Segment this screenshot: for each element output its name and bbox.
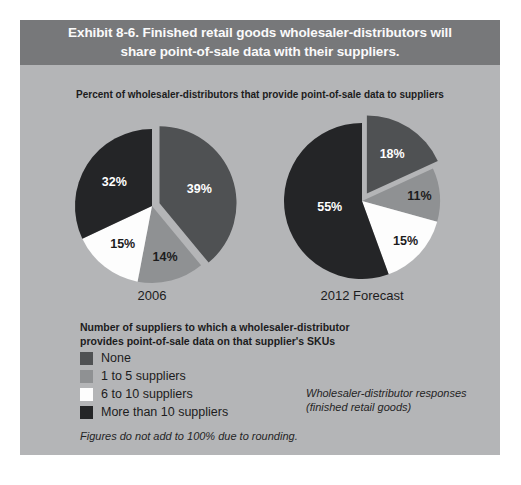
legend-item-1-to-5: 1 to 5 suppliers bbox=[80, 367, 300, 385]
pie-value-label: 55% bbox=[317, 200, 342, 214]
pie-value-label: 11% bbox=[407, 189, 431, 203]
legend-title: Number of suppliers to which a wholesale… bbox=[80, 321, 380, 349]
pie-value-label: 18% bbox=[380, 147, 405, 161]
source-note: Wholesaler-distributor responses (finish… bbox=[306, 386, 486, 415]
legend-swatch-1-to-5 bbox=[80, 370, 93, 383]
pie-value-label: 32% bbox=[102, 175, 127, 189]
legend-label: 6 to 10 suppliers bbox=[101, 387, 193, 401]
legend-swatch-none bbox=[80, 352, 93, 365]
pie-chart-2006: 39%14%15%32% bbox=[20, 110, 280, 295]
pie-caption-2006: 2006 bbox=[72, 288, 232, 303]
legend-label: 1 to 5 suppliers bbox=[101, 369, 186, 383]
source-note-line2: (finished retail goods) bbox=[306, 400, 486, 414]
pie-caption-2012-forecast: 2012 Forecast bbox=[282, 288, 442, 303]
legend-item-more-than-10: More than 10 suppliers bbox=[80, 403, 300, 421]
legend-swatch-6-to-10 bbox=[80, 388, 93, 401]
pie-value-label: 14% bbox=[153, 250, 178, 264]
pie-chart-2012-forecast: 18%11%15%55% bbox=[270, 105, 500, 295]
legend-label: More than 10 suppliers bbox=[101, 405, 228, 419]
legend-item-6-to-10: 6 to 10 suppliers bbox=[80, 385, 300, 403]
exhibit-header: Exhibit 8-6. Finished retail goods whole… bbox=[20, 20, 500, 65]
legend-title-line1: Number of suppliers to which a wholesale… bbox=[80, 321, 380, 335]
exhibit-8-6: Exhibit 8-6. Finished retail goods whole… bbox=[0, 0, 521, 485]
pie-value-label: 39% bbox=[187, 182, 212, 196]
legend-item-none: None bbox=[80, 349, 300, 367]
pie-value-label: 15% bbox=[110, 237, 135, 251]
legend-label: None bbox=[101, 351, 131, 365]
legend-swatch-more-than-10 bbox=[80, 406, 93, 419]
legend: None 1 to 5 suppliers 6 to 10 suppliers … bbox=[80, 349, 300, 421]
legend-title-line2: provides point-of-sale data on that supp… bbox=[80, 335, 380, 349]
pie-value-label: 15% bbox=[393, 234, 418, 248]
footnote: Figures do not add to 100% due to roundi… bbox=[80, 430, 380, 442]
exhibit-title-line2: share point-of-sale data with their supp… bbox=[20, 43, 500, 62]
source-note-line1: Wholesaler-distributor responses bbox=[306, 386, 486, 400]
chart-subtitle: Percent of wholesaler-distributors that … bbox=[20, 89, 500, 100]
exhibit-title-line1: Exhibit 8-6. Finished retail goods whole… bbox=[20, 24, 500, 43]
